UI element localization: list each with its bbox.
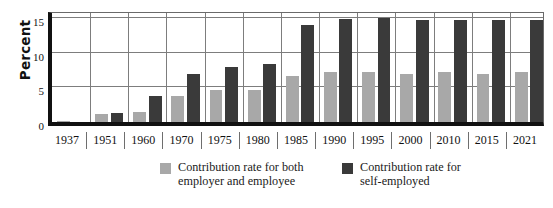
x-tick-1985: 1985	[277, 130, 315, 150]
x-tick-1980: 1980	[239, 130, 277, 150]
category-separator	[90, 13, 91, 122]
bar-2015-series-1	[492, 20, 505, 122]
bar-1990-series-0	[324, 72, 337, 122]
x-tick-separator	[201, 132, 202, 149]
bar-2010-series-0	[438, 72, 451, 122]
x-tick-separator	[391, 132, 392, 149]
category-separator	[243, 13, 244, 122]
x-tick-1975: 1975	[201, 130, 239, 150]
bar-1970-series-1	[187, 74, 200, 122]
bar-2000-series-1	[416, 20, 429, 122]
bar-1985-series-0	[286, 76, 299, 122]
bar-2021-series-0	[515, 72, 528, 122]
bar-1960-series-1	[149, 96, 162, 122]
bar-1951-series-0	[95, 114, 108, 122]
bar-2010-series-1	[454, 20, 467, 122]
bar-1960-series-0	[133, 112, 146, 122]
category-separator	[395, 13, 396, 122]
legend-label-employer-employee: Contribution rate for both employer and …	[178, 160, 304, 188]
x-tick-1937: 1937	[48, 130, 86, 150]
legend-item-employer-employee: Contribution rate for both employer and …	[160, 160, 304, 188]
legend-swatch-self-employed	[342, 163, 353, 174]
bar-1951-series-1	[111, 113, 124, 122]
bar-1985-series-1	[301, 25, 314, 122]
category-separator	[434, 13, 435, 122]
x-tick-separator	[468, 132, 469, 149]
bar-2021-series-1	[530, 20, 543, 122]
x-tick-separator	[86, 132, 87, 149]
x-tick-2000: 2000	[391, 130, 429, 150]
x-axis-tick-labels: 1937195119601970197519801985199019952000…	[48, 130, 544, 152]
bar-1980-series-0	[248, 90, 261, 122]
category-separator	[357, 13, 358, 122]
chart-legend: Contribution rate for both employer and …	[160, 160, 550, 200]
plot-inner	[52, 13, 543, 122]
legend-swatch-employer-employee	[160, 163, 171, 174]
x-tick-1960: 1960	[124, 130, 162, 150]
category-separator	[319, 13, 320, 122]
x-tick-separator	[506, 132, 507, 149]
category-separator	[166, 13, 167, 122]
x-tick-2015: 2015	[468, 130, 506, 150]
x-tick-1990: 1990	[315, 130, 353, 150]
legend-item-self-employed: Contribution rate for self-employed	[342, 160, 461, 188]
category-separator	[128, 13, 129, 122]
category-separator	[510, 13, 511, 122]
bar-chart-figure: Percent 051015 1937195119601970197519801…	[0, 0, 553, 208]
x-tick-separator	[277, 132, 278, 149]
bar-1980-series-1	[263, 64, 276, 122]
x-tick-1995: 1995	[353, 130, 391, 150]
x-tick-2010: 2010	[430, 130, 468, 150]
gridline-15	[52, 17, 543, 18]
category-separator	[472, 13, 473, 122]
x-tick-separator	[315, 132, 316, 149]
y-tick-0: 0	[10, 120, 44, 132]
bar-1995-series-1	[378, 18, 391, 122]
x-tick-2021: 2021	[506, 130, 544, 150]
bar-2015-series-0	[477, 74, 490, 122]
bar-1990-series-1	[339, 19, 352, 122]
bar-2000-series-0	[400, 74, 413, 122]
x-tick-1951: 1951	[86, 130, 124, 150]
x-tick-separator	[162, 132, 163, 149]
category-separator	[281, 13, 282, 122]
x-tick-separator	[124, 132, 125, 149]
bar-1937-series-0	[57, 121, 70, 122]
y-tick-15: 15	[10, 16, 44, 28]
x-tick-separator	[239, 132, 240, 149]
y-tick-10: 10	[10, 51, 44, 63]
bar-1975-series-0	[210, 90, 223, 122]
x-tick-separator	[353, 132, 354, 149]
category-separator	[205, 13, 206, 122]
plot-area	[48, 12, 544, 126]
bar-1970-series-0	[171, 96, 184, 122]
x-tick-1970: 1970	[162, 130, 200, 150]
gridline-10	[52, 52, 543, 53]
y-tick-5: 5	[10, 85, 44, 97]
legend-label-self-employed: Contribution rate for self-employed	[360, 160, 461, 188]
x-tick-separator	[430, 132, 431, 149]
y-axis-tick-labels: 051015	[8, 12, 44, 126]
bar-1995-series-0	[362, 72, 375, 122]
bar-1975-series-1	[225, 67, 238, 122]
